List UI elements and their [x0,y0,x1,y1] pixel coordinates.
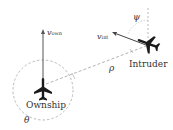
ownship-label: Ownship [26,101,66,110]
theta-label: θ [24,116,29,125]
rho-label: ρ [109,64,114,73]
v-int-arrow [117,34,146,45]
psi-arc [128,20,148,34]
v-own-arrowhead [41,29,45,34]
psi-label: ψ [133,13,140,22]
intruder-aircraft-icon [135,31,162,56]
v-int-subscript: int [102,34,109,40]
v-own-label: vown [47,29,62,37]
ownship-aircraft-icon [34,78,52,101]
encounter-diagram: vown vint ψ ρ Intruder Ownship θ [0,0,173,130]
v-int-label: vint [97,33,108,41]
intruder-label: Intruder [129,60,167,69]
v-int-arrowhead [112,32,117,36]
angle-tick [72,73,75,79]
v-own-subscript: own [52,30,63,36]
